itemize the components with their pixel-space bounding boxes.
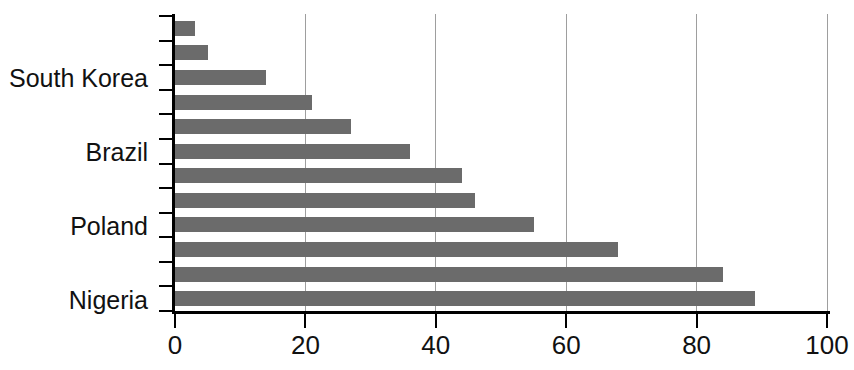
gridline bbox=[827, 14, 828, 311]
bar bbox=[175, 168, 462, 183]
bar bbox=[175, 70, 266, 85]
bar bbox=[175, 291, 755, 306]
bar bbox=[175, 217, 534, 232]
x-tick-label: 60 bbox=[552, 331, 581, 359]
bar bbox=[175, 242, 618, 257]
x-axis-tick bbox=[826, 314, 828, 328]
bar bbox=[175, 267, 723, 282]
x-tick-label: 40 bbox=[421, 331, 450, 359]
bar bbox=[175, 45, 208, 60]
x-axis-tick bbox=[174, 314, 176, 328]
x-tick-label: 0 bbox=[168, 331, 182, 359]
x-axis-line bbox=[172, 311, 830, 314]
category-label: Poland bbox=[70, 213, 148, 238]
x-axis-tick bbox=[435, 314, 437, 328]
category-label: Brazil bbox=[85, 140, 148, 165]
x-tick-label: 80 bbox=[682, 331, 711, 359]
bar-chart: South KoreaBrazilPolandNigeria0204060801… bbox=[0, 0, 854, 370]
x-axis-tick bbox=[696, 314, 698, 328]
bar bbox=[175, 21, 195, 36]
category-label: South Korea bbox=[9, 66, 148, 91]
bar bbox=[175, 119, 351, 134]
x-tick-label: 100 bbox=[805, 331, 848, 359]
x-axis-tick bbox=[565, 314, 567, 328]
x-tick-label: 20 bbox=[291, 331, 320, 359]
x-axis-tick bbox=[304, 314, 306, 328]
y-axis-line bbox=[172, 14, 175, 314]
bar bbox=[175, 95, 312, 110]
bar bbox=[175, 144, 410, 159]
plot-area: South KoreaBrazilPolandNigeria0204060801… bbox=[0, 0, 854, 370]
bar bbox=[175, 193, 475, 208]
category-label: Nigeria bbox=[69, 287, 148, 312]
